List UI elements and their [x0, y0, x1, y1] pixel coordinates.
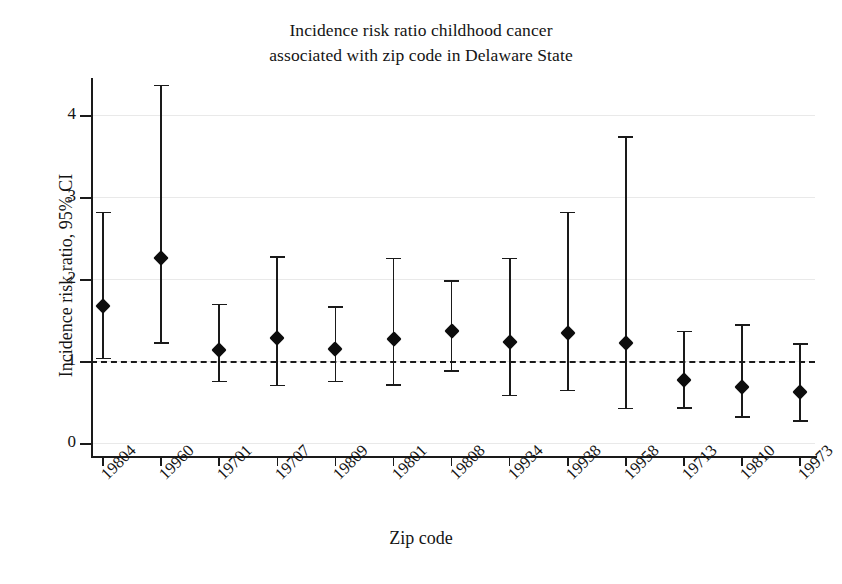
x-axis-tick-label: 19804: [97, 441, 140, 484]
x-axis-tick-label: 19707: [271, 441, 314, 484]
confidence-interval-upper-cap: [386, 258, 401, 260]
y-axis-tick: [80, 115, 91, 117]
confidence-interval-upper-cap: [96, 212, 111, 214]
data-point-marker[interactable]: [386, 331, 402, 347]
confidence-interval-lower-cap: [502, 395, 517, 397]
y-axis-tick: [80, 361, 91, 363]
confidence-interval-lower-cap: [96, 358, 111, 360]
x-axis-tick-label: 19808: [446, 441, 489, 484]
x-axis-tick-label: 19809: [329, 441, 372, 484]
y-axis-tick-label: 3: [36, 186, 76, 206]
confidence-interval-line: [102, 212, 104, 358]
data-point-marker[interactable]: [560, 325, 576, 341]
x-axis-tick-label: 19938: [562, 441, 605, 484]
data-point-marker[interactable]: [502, 334, 518, 350]
confidence-interval-upper-cap: [735, 324, 750, 326]
x-axis-tick-label: 19960: [155, 441, 198, 484]
x-axis-tick-label: 19934: [504, 441, 547, 484]
data-point-marker[interactable]: [618, 335, 634, 351]
data-point-marker[interactable]: [328, 341, 344, 357]
x-axis-label: Zip code: [0, 528, 842, 549]
confidence-interval-upper-cap: [560, 212, 575, 214]
confidence-interval-upper-cap: [154, 85, 169, 87]
y-axis-tick-label: 1: [36, 350, 76, 370]
chart-title-line-1: Incidence risk ratio childhood cancer: [0, 18, 842, 43]
x-axis-tick-label: 19973: [794, 441, 837, 484]
confidence-interval-lower-cap: [560, 390, 575, 392]
gridline: [91, 197, 815, 198]
confidence-interval-line: [683, 331, 685, 407]
confidence-interval-lower-cap: [793, 420, 808, 422]
y-axis-line: [91, 78, 93, 457]
confidence-interval-line: [567, 212, 569, 390]
confidence-interval-line: [799, 343, 801, 420]
confidence-interval-upper-cap: [677, 331, 692, 333]
confidence-interval-upper-cap: [444, 280, 459, 282]
data-point-marker[interactable]: [734, 379, 750, 395]
reference-line: [91, 361, 815, 363]
data-point-marker[interactable]: [211, 343, 227, 359]
forest-plot-figure: Incidence risk ratio childhood cancer as…: [0, 0, 842, 584]
y-axis-tick-label: 2: [36, 268, 76, 288]
confidence-interval-lower-cap: [270, 385, 285, 387]
confidence-interval-upper-cap: [328, 306, 343, 308]
confidence-interval-line: [741, 324, 743, 416]
confidence-interval-line: [393, 258, 395, 384]
confidence-interval-line: [625, 136, 627, 407]
data-point-marker[interactable]: [676, 372, 692, 388]
y-axis-tick: [80, 443, 91, 445]
confidence-interval-upper-cap: [502, 258, 517, 260]
data-point-marker[interactable]: [270, 330, 286, 346]
x-axis-tick-label: 19713: [678, 441, 721, 484]
y-axis-tick-label: 4: [36, 104, 76, 124]
confidence-interval-lower-cap: [677, 407, 692, 409]
x-axis-tick-label: 19801: [388, 441, 431, 484]
y-axis-tick: [80, 279, 91, 281]
data-point-marker[interactable]: [95, 298, 111, 314]
confidence-interval-upper-cap: [212, 304, 227, 306]
confidence-interval-lower-cap: [328, 381, 343, 383]
chart-title: Incidence risk ratio childhood cancer as…: [0, 18, 842, 68]
confidence-interval-line: [509, 258, 511, 395]
confidence-interval-line: [160, 85, 162, 342]
data-point-marker[interactable]: [153, 250, 169, 266]
chart-title-line-2: associated with zip code in Delaware Sta…: [0, 43, 842, 68]
x-axis-tick-label: 19958: [620, 441, 663, 484]
x-axis-tick-label: 19810: [736, 441, 779, 484]
confidence-interval-lower-cap: [735, 416, 750, 418]
data-point-marker[interactable]: [792, 384, 808, 400]
y-axis-tick: [80, 197, 91, 199]
y-axis-tick-label: 0: [36, 432, 76, 452]
confidence-interval-lower-cap: [212, 381, 227, 383]
confidence-interval-lower-cap: [618, 408, 633, 410]
confidence-interval-upper-cap: [793, 343, 808, 345]
confidence-interval-line: [276, 256, 278, 385]
confidence-interval-lower-cap: [444, 370, 459, 372]
confidence-interval-upper-cap: [270, 256, 285, 258]
x-axis-tick-label: 19701: [213, 441, 256, 484]
confidence-interval-lower-cap: [386, 384, 401, 386]
data-point-marker[interactable]: [444, 323, 460, 339]
gridline: [91, 115, 815, 116]
confidence-interval-upper-cap: [618, 136, 633, 138]
confidence-interval-lower-cap: [154, 342, 169, 344]
